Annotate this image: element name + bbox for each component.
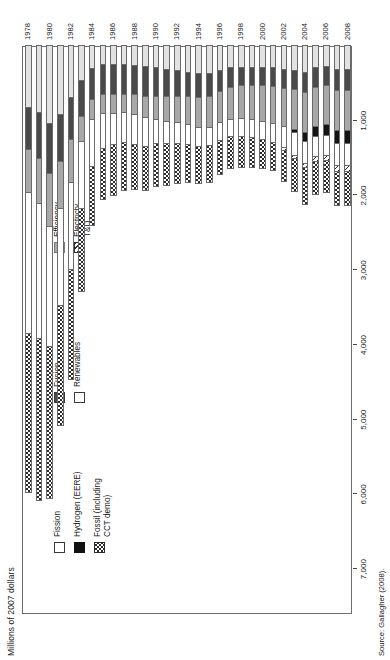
bar-segment-fossil [26,334,31,493]
bar-segment-fossil [37,339,42,500]
bar-segment-tnd [303,164,308,169]
bar-segment-renewables [69,46,74,98]
bar-segment-fossil [282,151,287,181]
value-axis-tick [353,269,357,270]
bar-segment-efficiency [47,174,52,227]
bar-segment-fission [324,136,329,155]
bar-1985[interactable] [100,45,107,200]
bar-1999[interactable] [249,45,256,168]
bar-segment-efficiency [90,100,95,120]
bar-1981[interactable] [57,45,64,426]
bar-segment-fission [271,124,276,144]
bar-segment-fossil [101,149,106,199]
bar-segment-efficiency [154,97,159,119]
bar-segment-efficiency [79,117,84,143]
bar-segment-renewables [196,46,201,74]
bar-segment-tnd [313,157,318,162]
bar-1991[interactable] [163,45,170,186]
bar-1993[interactable] [185,45,192,183]
bar-1990[interactable] [153,45,160,187]
bar-segment-fission [207,128,212,146]
bar-1984[interactable] [89,45,96,226]
bar-1986[interactable] [110,45,117,196]
value-axis-tick [353,419,357,420]
bar-2000[interactable] [259,45,266,169]
bar-segment-fusion [69,98,74,140]
chart-root: Millions of 2007 dollars Source: Gallagh… [0,0,390,660]
value-axis-tick-label: 2,000 [359,185,368,205]
bar-2008[interactable] [344,45,351,206]
bar-segment-renewables [90,46,95,69]
bar-1980[interactable] [46,45,53,499]
bar-segment-efficiency [250,86,255,120]
bar-1996[interactable] [217,45,224,175]
bar-segment-renewables [260,46,265,68]
bar-segment-efficiency [239,86,244,119]
bar-segment-fusion [282,70,287,89]
bar-segment-renewables [218,46,223,71]
bar-segment-fossil [132,145,137,189]
bar-segment-hydrogen [292,130,297,134]
category-axis-label-1998: 1998 [236,23,245,40]
bar-segment-renewables [111,46,116,65]
category-axis-label-1992: 1992 [172,23,181,40]
category-axis-label-2004: 2004 [300,23,309,40]
bar-segment-fusion [122,65,127,95]
bar-1979[interactable] [36,45,43,501]
bar-1989[interactable] [142,45,149,191]
bar-segment-fossil [196,147,201,183]
bar-segment-fusion [292,71,297,90]
bar-segment-fission [143,118,148,147]
bar-segment-tnd [282,148,287,151]
bar-segment-renewables [26,46,31,108]
bar-2001[interactable] [270,45,277,171]
bar-segment-efficiency [122,95,127,114]
bar-segment-efficiency [69,141,74,183]
bar-segment-efficiency [26,151,31,193]
bar-segment-fossil [335,172,340,205]
bar-2005[interactable] [312,45,319,195]
bar-2002[interactable] [281,45,288,182]
bar-1997[interactable] [227,45,234,169]
bar-1998[interactable] [238,45,245,168]
bar-1988[interactable] [131,45,138,190]
bar-segment-tnd [335,166,340,172]
bar-segment-efficiency [292,90,297,129]
bar-1982[interactable] [68,45,75,380]
bar-segment-efficiency [101,95,106,114]
bar-1994[interactable] [195,45,202,184]
bar-1992[interactable] [174,45,181,184]
bar-segment-fusion [313,68,318,87]
bar-segment-fusion [335,70,340,90]
bar-segment-renewables [186,46,191,73]
bar-segment-fission [69,183,74,271]
bar-segment-fossil [69,270,74,379]
bar-2007[interactable] [334,45,341,206]
value-axis-tick [353,344,357,345]
bar-2006[interactable] [323,45,330,193]
bar-segment-fission [313,137,318,157]
bar-1983[interactable] [78,45,85,292]
bar-segment-efficiency [335,91,340,132]
bar-2003[interactable] [291,45,298,192]
bar-segment-fusion [26,108,31,150]
bar-segment-fossil [207,146,212,182]
bar-segment-fusion [164,70,169,97]
bar-segment-fossil [111,145,116,195]
bar-segment-fossil [79,209,84,291]
bar-segment-fission [196,128,201,147]
bar-segment-efficiency [218,92,223,123]
bar-1995[interactable] [206,45,213,183]
bar-segment-fission [47,227,52,347]
bar-segment-fusion [250,68,255,87]
bar-segment-fission [122,114,127,144]
bars-layer [23,47,351,613]
bar-segment-fission [90,120,95,167]
bar-1978[interactable] [25,45,32,493]
value-axis-tick-label: 1,000 [359,111,368,131]
bar-segment-fossil [164,144,169,184]
bar-1987[interactable] [121,45,128,191]
bar-segment-fission [164,122,169,144]
bar-2004[interactable] [302,45,309,205]
bar-segment-fusion [303,73,308,93]
